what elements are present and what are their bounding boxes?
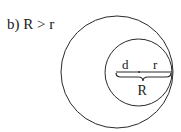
- label-R: R: [138, 83, 148, 98]
- curly-brace: [116, 73, 171, 81]
- center-dot: [138, 71, 140, 73]
- label-d: d: [122, 57, 129, 72]
- label-r: r: [153, 57, 158, 72]
- caption: b) R > r: [7, 16, 54, 33]
- diagram-canvas: b) R > r d r R: [0, 0, 181, 132]
